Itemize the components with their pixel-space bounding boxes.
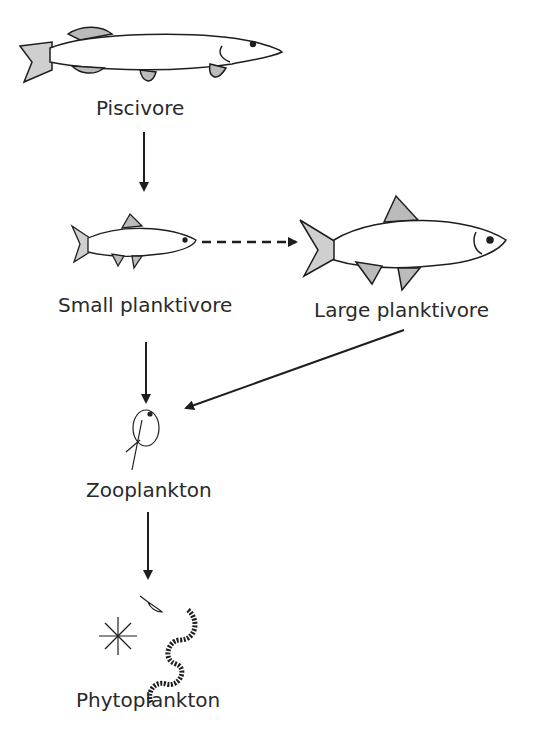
small-planktivore-fish-illustration: [72, 214, 196, 268]
large-planktivore-fish-illustration: [300, 196, 506, 290]
pike-fish-illustration: [20, 27, 282, 82]
label-small-planktivore: Small planktivore: [58, 293, 232, 317]
food-web-diagram: [0, 0, 534, 739]
label-phytoplankton: Phytoplankton: [76, 688, 220, 712]
arrow-large-planktivore-to-zooplankton: [186, 330, 404, 408]
dinoflagellate-icon: [140, 596, 162, 612]
zooplankton-daphnia-illustration: [126, 410, 159, 470]
diatom-star-icon: [99, 617, 137, 655]
label-large-planktivore: Large planktivore: [314, 298, 489, 322]
label-zooplankton: Zooplankton: [86, 478, 212, 502]
label-piscivore: Piscivore: [96, 96, 184, 120]
